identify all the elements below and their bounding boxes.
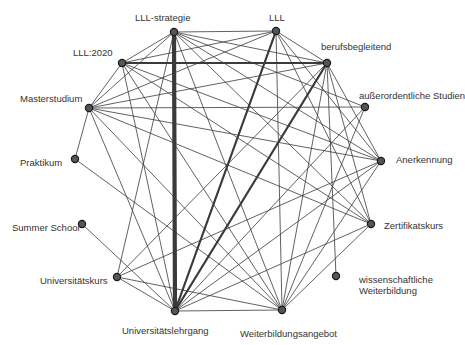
node-label-universitaetskurs: Universitätskurs xyxy=(40,275,108,286)
node-lll xyxy=(272,27,279,34)
edge-lll-strategie-universitaetslehrgang xyxy=(174,32,175,311)
edge-ausserordentliche-universitaetslehrgang xyxy=(175,107,365,311)
edge-masterstudium-anerkennung xyxy=(89,108,381,161)
node-label-anerkennung: Anerkennung xyxy=(396,154,453,165)
edge-berufsbegleitend-anerkennung xyxy=(327,63,381,161)
node-label-text: Masterstudium xyxy=(20,93,82,104)
edges-layer xyxy=(75,31,381,311)
node-label-text: Zertifikatskurs xyxy=(384,220,443,231)
node-label-text: LLL:2020 xyxy=(73,47,113,58)
edge-zertifikatskurs-universitaetslehrgang xyxy=(175,224,371,311)
node-label-text: LLL-strategie xyxy=(135,12,190,23)
node-lll2020 xyxy=(118,59,125,66)
node-zertifikatskurs xyxy=(367,220,374,227)
node-label-summerschool: Summer School xyxy=(12,222,80,233)
edge-universitaetskurs-universitaetslehrgang xyxy=(117,277,175,311)
node-label-text: LLL xyxy=(269,12,285,23)
node-berufsbegleitend xyxy=(323,59,330,66)
edge-lll2020-weiterbildungsangebot xyxy=(122,63,282,310)
edge-ausserordentliche-weiterbildungsangebot xyxy=(282,107,365,310)
edge-berufsbegleitend-masterstudium xyxy=(89,63,327,108)
node-label-text: außerordentliche Studien xyxy=(359,90,465,101)
node-label-masterstudium: Masterstudium xyxy=(20,93,82,104)
edge-masterstudium-praktikum xyxy=(75,108,89,159)
node-weiterbildungsangebot xyxy=(278,306,285,313)
edge-lll-strategie-lll2020 xyxy=(122,32,174,63)
node-praktikum xyxy=(71,155,78,162)
node-wissenschaftliche xyxy=(332,272,339,279)
node-label-berufsbegleitend: berufsbegleitend xyxy=(321,41,391,52)
node-universitaetskurs xyxy=(113,273,120,280)
node-label-lll: LLL xyxy=(269,12,285,23)
node-anerkennung xyxy=(377,157,384,164)
edge-praktikum-weiterbildungsangebot xyxy=(75,159,282,310)
node-lll-strategie xyxy=(170,28,177,35)
node-label-weiterbildungsangebot: Weiterbildungsangebot xyxy=(240,328,337,339)
node-label-text: berufsbegleitend xyxy=(321,41,391,52)
node-label-text: Summer School xyxy=(12,222,80,233)
node-label-lll-strategie: LLL-strategie xyxy=(135,12,190,23)
edge-masterstudium-ausserordentliche xyxy=(89,107,365,108)
node-label-text: Weiterbildungsangebot xyxy=(240,328,337,339)
edge-anerkennung-universitaetslehrgang xyxy=(175,161,381,311)
node-label-zertifikatskurs: Zertifikatskurs xyxy=(384,220,443,231)
node-universitaetslehrgang xyxy=(171,307,178,314)
edge-universitaetskurs-weiterbildungsangebot xyxy=(117,277,282,310)
node-masterstudium xyxy=(85,104,92,111)
node-label-ausserordentliche: außerordentliche Studien xyxy=(359,90,465,101)
node-label-text: Universitätskurs xyxy=(40,275,108,286)
node-label-praktikum: Praktikum xyxy=(20,157,62,168)
edge-lll-strategie-lll xyxy=(174,31,276,32)
node-label-text: Anerkennung xyxy=(396,154,453,165)
node-label-text: Universitätslehrgang xyxy=(122,325,209,336)
node-ausserordentliche xyxy=(361,103,368,110)
edge-universitaetslehrgang-weiterbildungsangebot xyxy=(175,310,282,311)
node-label-lll2020: LLL:2020 xyxy=(73,47,113,58)
node-label-text: wissenschaftliche xyxy=(359,274,433,285)
node-label-text-line2: Weiterbildung xyxy=(359,285,433,296)
node-label-wissenschaftliche: wissenschaftlicheWeiterbildung xyxy=(359,274,433,296)
node-label-text: Praktikum xyxy=(20,157,62,168)
edge-lll-lll2020 xyxy=(122,31,276,63)
edge-summerschool-universitaetslehrgang xyxy=(82,224,175,311)
node-label-universitaetslehrgang: Universitätslehrgang xyxy=(122,325,209,336)
edge-lll-strategie-masterstudium xyxy=(89,32,174,108)
edge-masterstudium-zertifikatskurs xyxy=(89,108,371,224)
